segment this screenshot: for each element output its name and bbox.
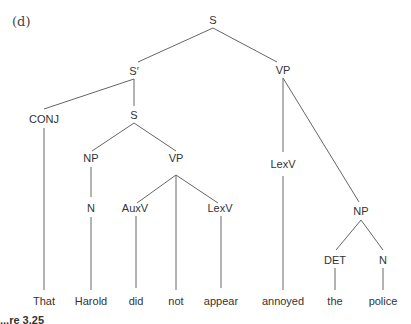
node-np-obj: NP — [353, 205, 368, 217]
word-the: the — [327, 295, 342, 307]
node-np-subj: NP — [83, 152, 98, 164]
node-n-harold: N — [87, 202, 95, 214]
word-did: did — [129, 295, 144, 307]
word-police: police — [369, 295, 398, 307]
node-conj: CONJ — [29, 113, 59, 125]
node-s-inner: S — [130, 109, 137, 121]
node-lexv-annoyed: LexV — [270, 158, 296, 170]
syntax-tree: S S′ VP CONJ S LexV NP VP N AuxV LexV NP… — [0, 0, 411, 324]
word-annoyed: annoyed — [262, 295, 304, 307]
node-lexv-appear: LexV — [207, 202, 233, 214]
figure-caption: ...re 3.25 — [0, 314, 44, 324]
word-that: That — [33, 295, 55, 307]
node-n-police: N — [379, 254, 387, 266]
node-auxv: AuxV — [122, 202, 149, 214]
node-s-root: S — [209, 14, 216, 26]
node-s-bar: S′ — [129, 65, 138, 77]
node-det: DET — [324, 254, 346, 266]
node-vp-inner: VP — [169, 152, 184, 164]
node-vp-top: VP — [276, 64, 291, 76]
word-not: not — [168, 295, 183, 307]
word-appear: appear — [204, 295, 239, 307]
word-harold: Harold — [75, 295, 107, 307]
